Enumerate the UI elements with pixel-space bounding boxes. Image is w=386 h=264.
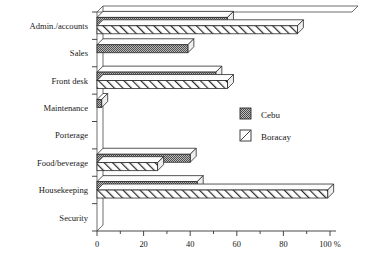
chart-canvas: Admin./accountsSalesFront deskMaintenanc… [0,0,386,264]
legend-label-cebu: Cebu [261,110,280,120]
x-tick-label: 60 [233,240,241,249]
bar [97,39,194,53]
category-label: Sales [70,48,89,58]
category-label: Food/beverage [37,158,88,168]
x-tick-label: 80 [279,240,287,249]
bar-chart: Admin./accountsSalesFront deskMaintenanc… [0,0,386,264]
category-label: Maintenance [44,103,89,113]
bar [97,75,233,89]
category-label: Security [59,213,88,223]
category-label: Admin./accounts [30,21,89,31]
x-tick-label: 100 % [319,240,341,249]
legend-swatch-cebu [240,108,251,119]
category-label: Porterage [55,130,88,140]
bar [97,20,303,34]
bar [97,184,334,198]
category-label: Front desk [51,76,88,86]
legend-label-boracay: Boracay [261,132,291,142]
x-tick-label: 0 [95,240,99,249]
category-label: Housekeeping [39,185,89,195]
x-tick-label: 40 [186,240,194,249]
bar [97,157,164,171]
x-tick-label: 20 [139,240,147,249]
